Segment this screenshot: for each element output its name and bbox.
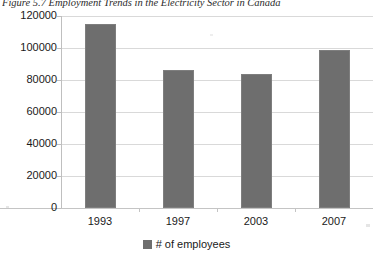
y-axis-tick-label: 120000 bbox=[0, 10, 57, 21]
y-axis-tick-label: 20000 bbox=[0, 170, 57, 181]
y-axis-tick-mark bbox=[57, 144, 61, 145]
x-axis-tick-mark bbox=[295, 208, 296, 212]
gridline bbox=[61, 16, 373, 17]
scan-speckle bbox=[6, 206, 9, 208]
y-axis-tick-label: 80000 bbox=[0, 74, 57, 85]
x-axis-tick-mark bbox=[139, 208, 140, 212]
y-axis-tick-mark bbox=[57, 48, 61, 49]
bar bbox=[85, 24, 116, 208]
figure-caption: Figure 5.7 Employment Trends in the Elec… bbox=[2, 0, 373, 9]
y-axis-tick-label: 40000 bbox=[0, 138, 57, 149]
y-axis-tick-mark bbox=[57, 176, 61, 177]
y-axis-tick-mark bbox=[57, 80, 61, 81]
scan-speckle bbox=[210, 34, 213, 36]
x-axis-tick-label: 1997 bbox=[148, 215, 208, 227]
y-axis-tick-label: 60000 bbox=[0, 106, 57, 117]
bar bbox=[163, 70, 194, 208]
bar bbox=[319, 50, 350, 208]
bar-chart: 020000400006000080000100000120000 199319… bbox=[0, 10, 373, 259]
chart-legend: # of employees bbox=[0, 238, 373, 250]
legend-label-employees: # of employees bbox=[156, 238, 231, 250]
legend-swatch-icon bbox=[143, 240, 152, 249]
y-axis-tick-label: 100000 bbox=[0, 42, 57, 53]
y-axis-tick-mark bbox=[57, 16, 61, 17]
x-axis-tick-mark bbox=[217, 208, 218, 212]
bar bbox=[241, 74, 272, 208]
y-axis-line bbox=[61, 16, 62, 209]
x-axis-tick-label: 1993 bbox=[70, 215, 130, 227]
x-axis-tick-label: 2007 bbox=[304, 215, 364, 227]
x-axis-tick-label: 2003 bbox=[226, 215, 286, 227]
y-axis-tick-mark bbox=[57, 112, 61, 113]
y-axis-tick-mark bbox=[57, 208, 61, 209]
scan-speckle bbox=[366, 224, 370, 227]
